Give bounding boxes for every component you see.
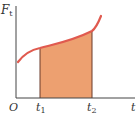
t1-label: t1 — [36, 101, 46, 115]
x-axis-label: t — [131, 101, 136, 114]
force-time-graph: Ft O t1 t2 t — [0, 0, 140, 118]
origin-label: O — [9, 101, 18, 114]
t2-label: t2 — [87, 101, 97, 115]
y-axis-label: Ft — [0, 3, 13, 18]
